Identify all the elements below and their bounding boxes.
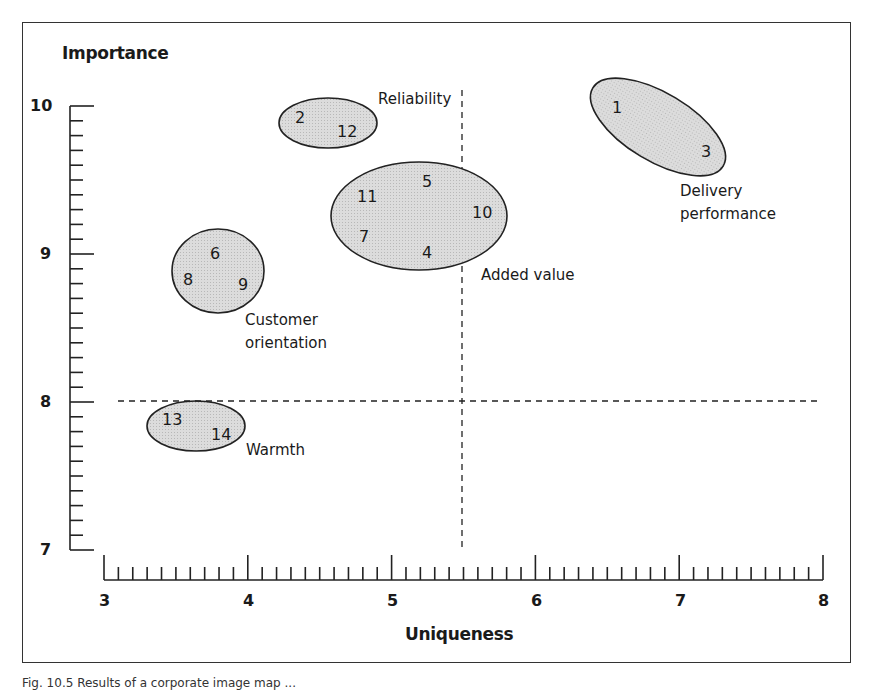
cluster-label-added-value: Added value	[481, 264, 575, 287]
x-axis-title: Uniqueness	[405, 624, 513, 644]
x-tick-label-3: 3	[99, 591, 110, 610]
point-13: 13	[162, 410, 182, 429]
cluster-ellipses	[147, 59, 741, 451]
point-5: 5	[422, 172, 432, 191]
point-10: 10	[472, 203, 492, 222]
point-1: 1	[612, 98, 622, 117]
y-tick-label-9: 9	[40, 244, 51, 263]
x-tick-label-4: 4	[243, 591, 254, 610]
cluster-label-delivery-line2: performance	[680, 203, 776, 226]
cluster-label-reliability: Reliability	[378, 88, 451, 111]
point-4: 4	[422, 243, 432, 262]
x-axis	[104, 555, 823, 580]
point-14: 14	[211, 425, 231, 444]
y-tick-label-8: 8	[40, 392, 51, 411]
point-7: 7	[359, 227, 369, 246]
cluster-reliability	[279, 98, 377, 148]
point-11: 11	[357, 187, 377, 206]
point-12: 12	[337, 122, 357, 141]
cluster-label-customer-line1: Customer	[245, 309, 318, 332]
cluster-label-warmth: Warmth	[246, 439, 305, 462]
point-3: 3	[701, 142, 711, 161]
y-axis-title: Importance	[62, 43, 169, 63]
y-axis	[70, 106, 94, 550]
figure-caption: Fig. 10.5 Results of a corporate image m…	[22, 676, 296, 690]
cluster-label-delivery-line1: Delivery	[680, 180, 742, 203]
y-tick-label-7: 7	[40, 540, 51, 559]
point-2: 2	[295, 108, 305, 127]
cluster-label-customer-line2: orientation	[245, 332, 327, 355]
y-tick-label-10: 10	[30, 96, 52, 115]
x-tick-label-7: 7	[675, 591, 686, 610]
point-8: 8	[183, 270, 193, 289]
cluster-delivery-performance	[575, 59, 740, 196]
x-tick-label-6: 6	[531, 591, 542, 610]
point-9: 9	[238, 275, 248, 294]
x-tick-label-8: 8	[818, 591, 829, 610]
x-tick-label-5: 5	[387, 591, 398, 610]
point-6: 6	[210, 244, 220, 263]
